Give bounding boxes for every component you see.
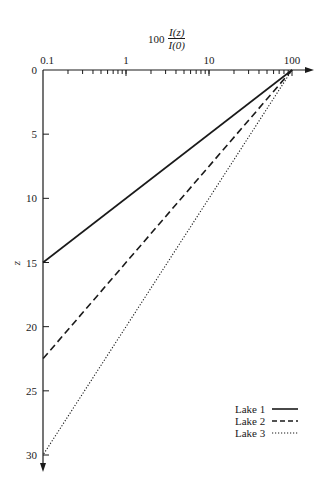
- axes: 0.1110100051015202530z: [10, 54, 314, 472]
- x-tick-label: 10: [204, 54, 216, 66]
- x-axis-arrow-icon: [305, 67, 314, 73]
- x-tick-label: 100: [284, 54, 301, 66]
- y-axis-title: z: [10, 260, 22, 266]
- legend-label: Lake 1: [235, 403, 265, 415]
- x-tick-label: 1: [123, 54, 129, 66]
- x-tick-label: 0.1: [40, 54, 54, 66]
- y-tick-label: 25: [26, 385, 38, 397]
- series-line-lake-1: [43, 70, 292, 263]
- series-line-lake-2: [43, 70, 292, 359]
- legend-label: Lake 3: [235, 427, 266, 439]
- legend-label: Lake 2: [235, 415, 265, 427]
- legend: Lake 1Lake 2Lake 3: [235, 403, 298, 439]
- chart-canvas: 0.1110100051015202530z Lake 1Lake 2Lake …: [0, 0, 316, 491]
- y-axis-arrow-icon: [40, 463, 46, 472]
- y-tick-label: 30: [26, 449, 38, 461]
- y-tick-label: 15: [26, 257, 38, 269]
- series-line-lake-3: [43, 70, 292, 455]
- y-tick-label: 5: [32, 128, 38, 140]
- y-tick-label: 0: [32, 64, 38, 76]
- y-tick-label: 10: [26, 192, 38, 204]
- y-tick-label: 20: [26, 321, 38, 333]
- series-lines: [43, 70, 292, 455]
